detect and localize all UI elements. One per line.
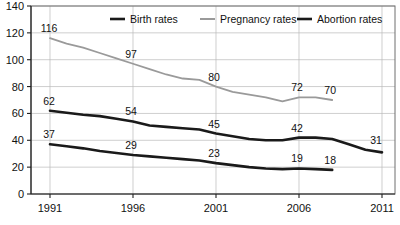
x-tick-label: 1991 [38,202,62,214]
chart-container: 020406080100120140 19911996200120062011 … [0,0,400,225]
x-tick-label: 1996 [121,202,145,214]
data-label: 62 [43,95,55,107]
y-tick-label: 20 [12,161,24,173]
chart-legend: Birth ratesPregnancy ratesAbortion rates [110,13,382,25]
data-label: 72 [291,81,303,93]
data-label: 116 [41,22,58,34]
y-tick-label: 60 [12,107,24,119]
data-label: 42 [291,122,303,134]
data-label: 29 [125,139,137,151]
x-tick-label: 2006 [287,202,311,214]
y-tick-label: 140 [6,0,24,12]
data-label: 70 [324,84,336,96]
data-label: 45 [208,118,220,130]
y-tick-label: 120 [6,27,24,39]
y-tick-label: 0 [18,188,24,200]
legend-label-abortion-rates: Abortion rates [317,13,382,25]
data-label: 18 [324,154,336,166]
data-label: 80 [208,71,220,83]
legend-label-birth-rates: Birth rates [130,13,178,25]
data-label: 54 [125,105,137,117]
data-label: 31 [370,134,382,146]
rates-line-chart: 020406080100120140 19911996200120062011 … [0,0,400,225]
x-tick-label: 2001 [204,202,228,214]
data-label: 37 [43,128,55,140]
data-label: 19 [291,152,303,164]
data-label: 23 [208,147,220,159]
x-tick-label: 2011 [370,202,394,214]
y-tick-label: 100 [6,54,24,66]
data-label: 97 [125,48,137,60]
y-tick-label: 40 [12,134,24,146]
legend-label-pregnancy-rates: Pregnancy rates [220,13,296,25]
y-tick-label: 80 [12,81,24,93]
